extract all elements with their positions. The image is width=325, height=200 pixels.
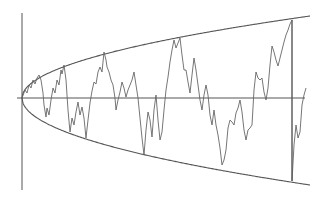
diagram-svg bbox=[0, 0, 325, 200]
random-walk-diagram bbox=[0, 0, 325, 200]
lower-envelope-curve bbox=[22, 98, 310, 185]
random-walk-path bbox=[22, 20, 306, 181]
upper-envelope-curve bbox=[22, 16, 310, 98]
